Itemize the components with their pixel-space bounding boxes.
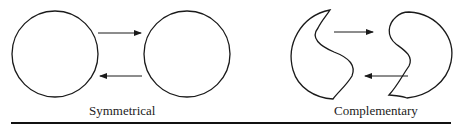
complementary-label: Complementary xyxy=(334,103,418,119)
right-crescent-shape xyxy=(389,12,452,98)
left-crescent-shape xyxy=(291,10,353,99)
left-circle xyxy=(12,11,98,97)
right-circle xyxy=(144,11,230,97)
symmetrical-label: Symmetrical xyxy=(89,103,155,119)
